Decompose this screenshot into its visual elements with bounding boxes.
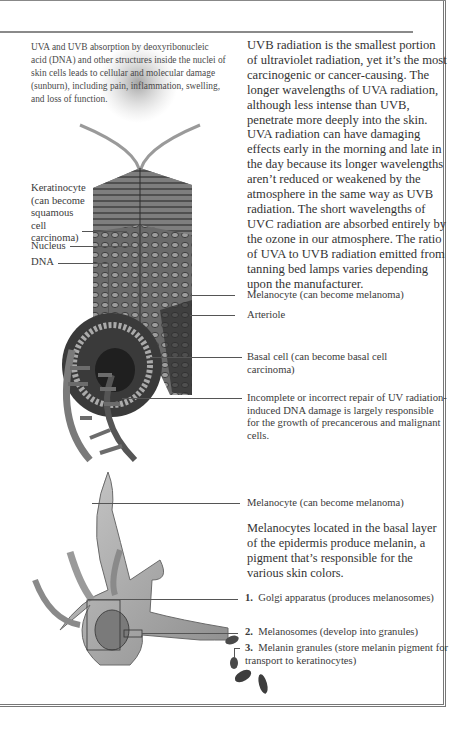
arteriole-leader [190, 315, 235, 316]
repair-note-leader [122, 398, 242, 399]
repair-note: Incomplete or incorrect repair of UV rad… [247, 392, 447, 442]
nucleus-leader [70, 246, 132, 247]
nucleus-label: Nucleus [31, 240, 66, 253]
part-number: 2. [245, 626, 253, 637]
intro-caption: UVA and UVB absorption by deoxyribonucle… [31, 41, 226, 106]
dna-leader-vertical [108, 263, 109, 313]
keratinocyte-label: Keratinocyte (can become squamous cell c… [31, 182, 91, 245]
part-number: 3. [245, 642, 253, 653]
part-golgi: 1. Golgi apparatus (produces melanosomes… [245, 592, 435, 605]
dna-label: DNA [31, 256, 54, 269]
granules-leader-vertical [234, 648, 235, 658]
arteriole-label: Arteriole [247, 309, 285, 322]
golgi-leader [88, 599, 238, 600]
dna-leader [58, 263, 108, 264]
melanocyte-label: Melanocyte (can become melanoma) [247, 289, 404, 302]
part-text: Melanosomes (develop into granules) [258, 626, 418, 637]
part-melanosomes: 2. Melanosomes (develop into granules) [245, 626, 450, 639]
part-granules: 3. Melanin granules (store melanin pigme… [245, 642, 450, 667]
melanosomes-leader [142, 633, 238, 634]
main-paragraph: UVB radiation is the smallest portion of… [247, 38, 447, 291]
melanocyte-leader [190, 295, 235, 296]
melanocyte-description: Melanocytes located in the basal layer o… [247, 521, 447, 581]
melanocyte-section-leader [92, 503, 240, 504]
part-text: Melanin granules (store melanin pigment … [245, 642, 448, 666]
keratinocyte-leader [82, 231, 127, 232]
melanocyte-section-label: Melanocyte (can become melanoma) [247, 497, 404, 510]
part-text: Golgi apparatus (produces melanosomes) [258, 592, 434, 603]
part-number: 1. [245, 592, 253, 603]
basal-cell-leader [150, 357, 242, 358]
basal-cell-label: Basal cell (can become basal cell carcin… [247, 351, 412, 376]
